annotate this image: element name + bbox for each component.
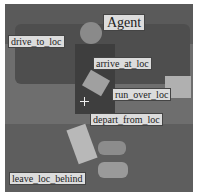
label-arrive-at-loc: arrive_at_loc bbox=[93, 57, 152, 70]
label-run-over-loc: run_over_loc bbox=[112, 88, 171, 101]
label-agent: Agent bbox=[103, 14, 145, 31]
label-leave-loc-behind: leave_loc_behind bbox=[9, 172, 86, 185]
label-drive-to-loc: drive_to_loc bbox=[8, 35, 65, 48]
crosshair-marker bbox=[80, 97, 89, 106]
rubble-lower bbox=[98, 162, 128, 178]
person-head bbox=[80, 22, 102, 44]
label-depart-from-loc: depart_from_loc bbox=[90, 113, 163, 126]
rubble-upper bbox=[98, 141, 126, 155]
